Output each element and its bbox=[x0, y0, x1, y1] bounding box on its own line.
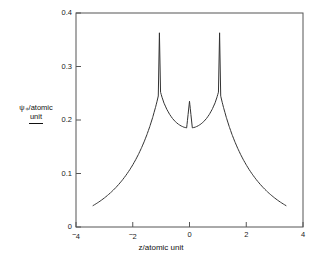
y-tick-label: 0.3 bbox=[30, 62, 72, 71]
plot-frame bbox=[76, 13, 303, 227]
chart-figure: ψ₊/atomic unit z/atomic unit −4−202400.1… bbox=[0, 0, 322, 265]
x-tick-label: 2 bbox=[226, 230, 266, 239]
x-axis-ticks bbox=[76, 222, 303, 227]
y-tick-label: 0 bbox=[30, 222, 72, 231]
x-tick-label: −4 bbox=[56, 230, 96, 241]
y-axis-title-numerator: ψ₊/atomic bbox=[8, 103, 64, 112]
y-axis-ticks bbox=[76, 13, 81, 227]
x-tick-label: −2 bbox=[113, 230, 153, 241]
data-curve-psi-plus bbox=[93, 33, 286, 206]
y-tick-label: 0.2 bbox=[30, 115, 72, 124]
x-tick-label: 4 bbox=[283, 230, 322, 239]
y-tick-label: 0.4 bbox=[30, 8, 72, 17]
x-axis-title: z/atomic unit bbox=[0, 243, 322, 252]
y-tick-label: 0.1 bbox=[30, 169, 72, 178]
x-tick-label: 0 bbox=[170, 230, 210, 239]
